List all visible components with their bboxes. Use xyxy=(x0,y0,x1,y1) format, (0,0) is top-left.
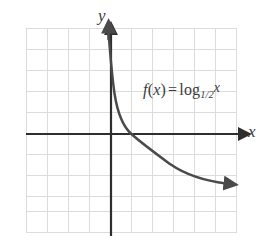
equals-sign: = xyxy=(166,81,179,98)
y-axis-label: y xyxy=(98,6,106,26)
log-base-subscript: 1/2 xyxy=(200,89,213,100)
log-argument: x xyxy=(214,80,220,95)
logarithmic-function-graph xyxy=(0,0,268,246)
figure-background xyxy=(0,0,268,246)
function-variable: x xyxy=(153,81,160,98)
function-equation-label: f(x)=log1/2x xyxy=(143,80,220,100)
x-axis-label: x xyxy=(248,122,256,142)
log-operator: log xyxy=(179,81,200,98)
